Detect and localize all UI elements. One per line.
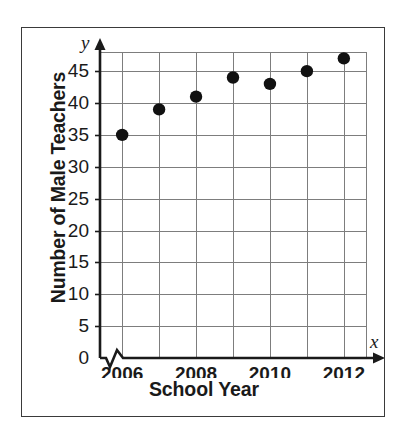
- axis-lines: [95, 38, 385, 367]
- y-tick-label: 25: [68, 188, 89, 209]
- data-point: [116, 129, 128, 141]
- y-tick-label: 40: [68, 92, 89, 113]
- y-axis-tick-labels: 051015202530354045: [68, 60, 89, 368]
- y-tick-label: 15: [68, 251, 89, 272]
- x-tick-label: 2008: [175, 363, 217, 378]
- data-point: [227, 71, 239, 83]
- data-point: [153, 103, 165, 115]
- y-tick-label: 20: [68, 220, 89, 241]
- vertical-gridlines: [123, 52, 367, 358]
- y-tick-label: 35: [68, 124, 89, 145]
- y-tick-label: 10: [68, 283, 89, 304]
- data-point: [190, 90, 202, 102]
- x-tick-label: 2012: [323, 363, 365, 378]
- x-axis-title: School Year: [22, 378, 386, 401]
- chart-figure-frame: Number of Male Teachers School Year 0510…: [21, 27, 385, 417]
- x-tick-label: 2006: [101, 363, 143, 378]
- y-tick-label: 5: [78, 315, 89, 336]
- data-point: [264, 78, 276, 90]
- x-axis-tick-labels: 2006200820102012: [101, 363, 365, 378]
- data-point: [338, 52, 350, 64]
- x-variable-label: x: [369, 331, 379, 352]
- y-variable-label: y: [79, 38, 90, 53]
- scatter-plot: 051015202530354045 2006200820102012 x y: [66, 38, 384, 378]
- y-tick-label: 45: [68, 60, 89, 81]
- x-tick-label: 2010: [249, 363, 291, 378]
- y-tick-label: 0: [78, 347, 89, 368]
- y-tick-label: 30: [68, 156, 89, 177]
- data-point: [301, 65, 313, 77]
